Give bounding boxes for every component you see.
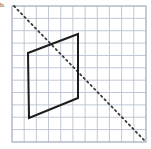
grid-svg [0,0,151,149]
grid-lines [12,6,146,142]
figure-container: b. [0,0,151,149]
grid-border [12,6,146,142]
